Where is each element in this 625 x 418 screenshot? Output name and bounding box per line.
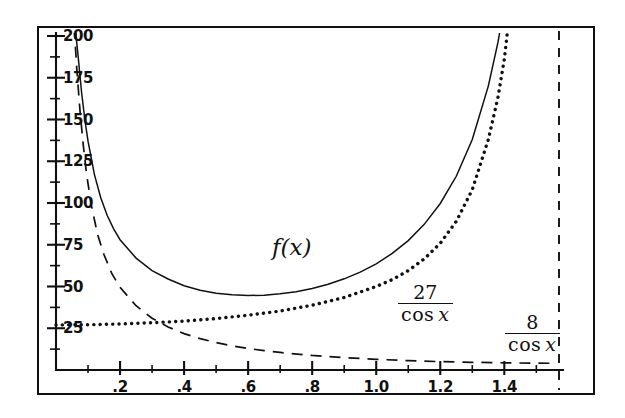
- y-ticklabel: 125: [63, 152, 93, 170]
- plot-canvas: [0, 0, 625, 418]
- x-ticklabel: .6: [226, 378, 270, 396]
- function-plot-figure: 255075100125150175200 .2.4.6.81.01.21.4 …: [0, 0, 625, 418]
- y-ticklabel: 25: [63, 319, 83, 337]
- fraction-denominator: cosx: [398, 303, 453, 325]
- y-ticklabel: 75: [63, 236, 83, 254]
- fraction-denominator: cosx: [505, 333, 560, 355]
- curves-group: [56, 0, 556, 363]
- fraction-numerator: 8: [505, 313, 560, 333]
- curve-dotted: [56, 0, 527, 325]
- y-ticklabel: 200: [63, 27, 93, 45]
- annotation-8-over-cos-x: 8 cosx: [505, 313, 560, 355]
- axis-lines: [56, 33, 563, 370]
- axes-group: [47, 31, 563, 390]
- y-ticklabel: 150: [63, 111, 93, 129]
- x-ticklabel: 1.2: [418, 378, 462, 396]
- curve-dashed: [74, 28, 555, 364]
- annotation-fx: f(x): [272, 234, 311, 260]
- y-ticklabel: 50: [63, 278, 83, 296]
- y-ticklabel: 175: [63, 69, 93, 87]
- x-ticklabel: .2: [98, 378, 142, 396]
- annotation-27-over-cos-x: 27 cosx: [398, 283, 453, 325]
- y-ticklabel: 100: [63, 194, 93, 212]
- x-ticklabel: 1.4: [482, 378, 526, 396]
- x-ticklabel: 1.0: [354, 378, 398, 396]
- x-ticklabel: .8: [290, 378, 334, 396]
- fraction-numerator: 27: [398, 283, 453, 303]
- x-ticklabel: .4: [162, 378, 206, 396]
